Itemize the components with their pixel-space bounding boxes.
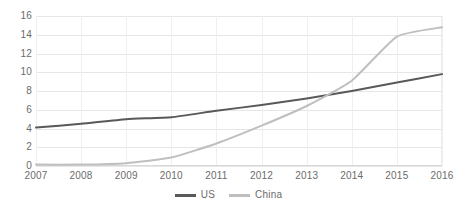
y-axis-tick-label: 4 [0, 124, 32, 134]
y-axis-tick-label: 8 [0, 86, 32, 96]
gridline-vertical [442, 16, 443, 166]
x-axis-tick-labels: 2007200820092010201120122013201420152016 [36, 170, 442, 186]
x-axis-tick-label: 2008 [70, 170, 93, 182]
x-axis-tick-label: 2011 [205, 170, 227, 182]
y-axis-tick-label: 12 [0, 49, 32, 59]
y-axis-tick-labels: 0246810121416 [0, 16, 32, 166]
line-chart: 0246810121416 20072008200920102011201220… [0, 0, 457, 211]
x-axis-tick-label: 2014 [340, 170, 363, 182]
x-axis-tick-label: 2009 [115, 170, 138, 182]
legend-swatch-china [229, 194, 250, 197]
x-axis-tick-label: 2007 [24, 170, 47, 182]
series-lines [36, 16, 442, 166]
series-line-china [36, 27, 442, 164]
y-axis-tick-label: 14 [0, 30, 32, 40]
x-axis-tick-label: 2013 [295, 170, 318, 182]
y-axis-tick-label: 16 [0, 11, 32, 21]
legend-swatch-us [175, 194, 196, 197]
y-axis-tick-label: 2 [0, 142, 32, 152]
x-axis-tick-label: 2015 [385, 170, 408, 182]
x-axis-tick-label: 2016 [430, 170, 453, 182]
x-axis-tick-label: 2012 [250, 170, 273, 182]
legend-item-us[interactable]: US [175, 189, 215, 201]
x-axis-tick-label: 2010 [160, 170, 183, 182]
legend-label-us: US [201, 189, 215, 201]
y-axis-tick-label: 10 [0, 67, 32, 77]
gridline-horizontal [36, 166, 442, 167]
series-line-us [36, 74, 442, 127]
y-axis-tick-label: 6 [0, 105, 32, 115]
legend-label-china: China [255, 189, 282, 201]
chart-legend: USChina [0, 189, 457, 201]
legend-item-china[interactable]: China [229, 189, 282, 201]
